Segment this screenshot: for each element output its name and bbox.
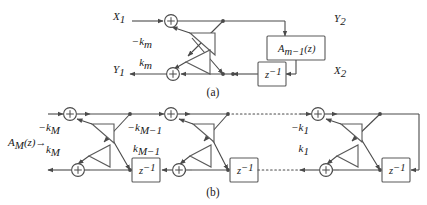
stage-M: −kM kM [39, 108, 132, 177]
delay-block-3: z−1 [382, 158, 410, 182]
caption-a: (a) [207, 86, 220, 99]
gain-upper-stage-M-minus-1 [179, 119, 214, 142]
gain-lower-stage-M-minus-1 [180, 145, 211, 167]
label-input-AM: AM(z)→ [7, 136, 47, 151]
stage-1: −k1 k1 [291, 108, 382, 177]
label-gain-lower-stage-1: k1 [299, 142, 309, 157]
panel-a: Am−1(z) z−1 X1 Y1 Y2 X2 −km km (a) [112, 10, 347, 99]
adder-bottom-a [167, 68, 180, 81]
panel-a-bottom-rail [130, 72, 258, 76]
adder-bottom-3 [320, 164, 333, 177]
label-gain-lower-a: km [139, 56, 152, 71]
delay-block-a: z−1 [258, 62, 286, 86]
gain-lower-stage-1 [327, 145, 358, 167]
label-x2: X2 [333, 64, 347, 79]
delay-block-2: z−1 [230, 158, 258, 182]
label-gain-upper-stage-1: −k1 [291, 121, 309, 136]
label-gain-upper-a: −km [132, 35, 152, 50]
panel-b: −kM kM AM(z)→ z−1 [7, 108, 419, 199]
gain-upper-stage-1 [326, 119, 362, 142]
adder-top-a [165, 15, 178, 28]
gain-upper-stage-M [77, 119, 114, 143]
label-gain-upper-stage-M: −kM [39, 121, 61, 136]
label-gain-upper-stage-M-minus-1: −kM−1 [128, 121, 162, 136]
block-diagram-figure: Am−1(z) z−1 X1 Y1 Y2 X2 −km km (a) [0, 0, 427, 205]
label-y1: Y1 [113, 63, 125, 78]
adder-top-2 [165, 108, 178, 121]
adder-top-1 [64, 108, 77, 121]
label-x1: X1 [112, 10, 125, 25]
label-gain-lower-stage-M: kM [46, 143, 61, 158]
gain-lower-stage-M [78, 145, 110, 167]
node-bottom-tap-2 [231, 72, 235, 76]
adder-bottom-2 [173, 164, 186, 177]
delay-block-1: z−1 [132, 158, 160, 182]
figure-container: Am−1(z) z−1 X1 Y1 Y2 X2 −km km (a) [0, 0, 427, 205]
adder-top-3 [312, 108, 325, 121]
allpass-block-a: Am−1(z) [267, 36, 325, 60]
caption-b: (b) [206, 186, 220, 199]
adder-bottom-1 [72, 164, 85, 177]
label-gain-lower-stage-M-minus-1: kM−1 [133, 142, 160, 157]
panel-a-feedback-path [286, 60, 296, 74]
gain-lower-a [174, 50, 210, 74]
label-y2: Y2 [334, 12, 346, 27]
